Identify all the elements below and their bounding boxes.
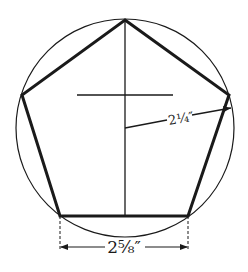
radius-arrowhead-icon xyxy=(223,106,231,112)
pentagon-diagram: 2¼″ 2⅝″ xyxy=(0,0,248,272)
radius-label: 2¼″ xyxy=(167,109,195,128)
radius-line xyxy=(125,120,167,128)
arrowhead-right-icon xyxy=(180,244,188,250)
side-length-label: 2⅝″ xyxy=(107,237,141,257)
arrowhead-left-icon xyxy=(60,244,68,250)
